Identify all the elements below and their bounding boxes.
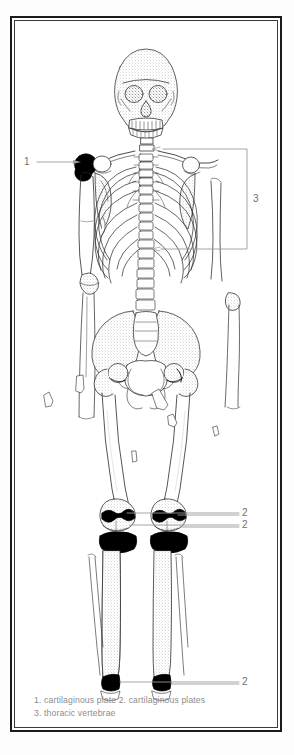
caption-line-1: 1. cartilaginous plate 2. cartilaginous …	[34, 694, 254, 707]
label-3: 3	[253, 194, 259, 204]
figure-caption: 1. cartilaginous plate 2. cartilaginous …	[34, 694, 254, 721]
label-2-distal-femur: 2	[242, 508, 248, 518]
leader-lines	[37, 160, 239, 684]
label-2-distal-tibia: 2	[242, 677, 248, 687]
knee-joints	[100, 499, 187, 531]
figure-page: 1 3 2 2 2 1. cartilaginous plate 2. cart…	[0, 0, 294, 755]
label-1: 1	[24, 157, 30, 167]
caption-line-2: 3. thoracic vertebrae	[34, 707, 254, 720]
figure-plate: 1 3 2 2 2	[15, 21, 277, 727]
right-arm	[211, 178, 240, 409]
skeleton-illustration	[15, 21, 277, 727]
label-2-proximal-tibia: 2	[242, 520, 248, 530]
lower-legs	[88, 551, 188, 679]
proximal-tibia-plates	[99, 532, 187, 553]
femora	[102, 393, 190, 508]
skull-group	[115, 49, 178, 139]
